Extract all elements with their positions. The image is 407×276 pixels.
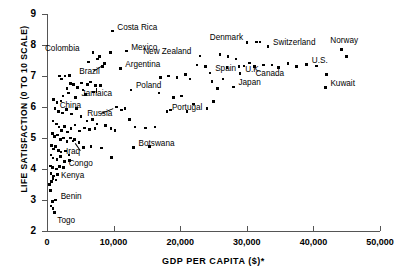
data-point: [80, 115, 83, 118]
data-point: [64, 75, 67, 78]
data-point: [128, 118, 131, 121]
data-point: [59, 138, 62, 141]
x-tick-label: 0: [17, 238, 77, 247]
data-point: [120, 109, 123, 112]
y-axis-title: LIFE SATISFACTION (0 TO 10 SCALE): [19, 19, 29, 199]
point-label: Canada: [255, 70, 284, 78]
x-tick-mark: [313, 226, 314, 231]
data-point: [158, 92, 161, 95]
data-point: [172, 96, 175, 99]
data-point: [98, 55, 101, 58]
point-label: Spain: [215, 65, 236, 73]
data-point: [59, 155, 62, 158]
data-point-labeled: [209, 72, 212, 75]
point-label: Argentina: [125, 61, 160, 69]
data-point-labeled: [115, 106, 118, 109]
data-point: [124, 107, 127, 110]
data-point: [60, 151, 63, 154]
data-point: [66, 140, 69, 143]
data-point: [58, 165, 61, 168]
point-label: Togo: [57, 217, 75, 225]
data-point: [72, 83, 75, 86]
point-label: Portugal: [172, 104, 203, 112]
data-point: [248, 62, 251, 65]
data-point: [74, 124, 77, 127]
data-point: [134, 126, 137, 129]
data-point: [52, 207, 55, 210]
data-point: [57, 110, 60, 113]
data-point: [167, 75, 170, 78]
data-point: [52, 120, 55, 123]
data-point-labeled: [199, 55, 202, 58]
data-point: [61, 112, 64, 115]
data-point: [86, 120, 89, 123]
data-point: [68, 74, 71, 77]
point-label: Benin: [61, 193, 82, 201]
data-point: [96, 123, 99, 126]
data-point: [52, 157, 55, 160]
point-label: Poland: [136, 82, 162, 90]
point-label: Colombia: [45, 45, 80, 53]
data-point-labeled: [119, 67, 122, 70]
point-label: Brazil: [79, 68, 99, 76]
data-point: [100, 147, 103, 150]
data-point: [212, 100, 215, 103]
data-point: [227, 55, 230, 58]
data-point: [60, 78, 63, 81]
data-point-labeled: [130, 89, 133, 92]
data-point: [53, 135, 56, 138]
point-label: Norway: [330, 37, 358, 45]
x-tick-label: 10,000: [84, 238, 144, 247]
data-point: [56, 101, 59, 104]
data-point-labeled: [340, 48, 343, 51]
data-point: [189, 78, 192, 81]
data-point: [55, 168, 58, 171]
data-point: [110, 127, 113, 130]
data-point: [69, 82, 72, 85]
point-label: Jamaica: [82, 90, 113, 98]
data-point-labeled: [62, 166, 65, 169]
y-tick-mark: [42, 76, 47, 77]
data-point: [56, 134, 59, 137]
data-point-labeled: [132, 146, 135, 149]
data-point-labeled: [239, 72, 242, 75]
data-point: [216, 87, 219, 90]
data-point: [54, 145, 57, 148]
data-point: [70, 113, 73, 116]
data-point: [159, 76, 162, 79]
point-label: Iraq: [66, 148, 80, 156]
data-point: [91, 118, 94, 121]
point-label: Costa Rica: [117, 24, 157, 32]
data-point: [325, 73, 328, 76]
x-tick-label: 30,000: [217, 238, 277, 247]
point-label: Denmark: [210, 34, 243, 42]
data-point: [56, 158, 59, 161]
data-point: [54, 107, 57, 110]
data-point-labeled: [103, 62, 106, 65]
data-point: [259, 41, 262, 44]
data-point: [62, 137, 65, 140]
data-point: [56, 173, 59, 176]
data-point: [82, 146, 85, 149]
data-point-labeled: [262, 64, 265, 67]
data-point: [271, 64, 274, 67]
x-tick-mark: [380, 226, 381, 231]
data-point-labeled: [255, 41, 258, 44]
y-tick-mark: [42, 169, 47, 170]
data-point: [287, 62, 290, 65]
data-point: [62, 95, 65, 98]
data-point: [87, 61, 90, 64]
y-tick-mark: [42, 107, 47, 108]
data-point: [154, 126, 157, 129]
data-point-labeled: [111, 30, 114, 33]
data-point: [238, 65, 241, 68]
data-point-labeled: [92, 51, 95, 54]
data-point: [89, 81, 92, 84]
data-point: [78, 141, 81, 144]
scatter-chart: 23456789 010,00020,00030,00040,00050,000…: [0, 0, 407, 276]
data-point: [60, 129, 63, 132]
data-point: [66, 87, 69, 90]
point-label: New Zealand: [143, 48, 191, 56]
x-tick-mark: [47, 226, 48, 231]
data-point: [52, 98, 55, 101]
